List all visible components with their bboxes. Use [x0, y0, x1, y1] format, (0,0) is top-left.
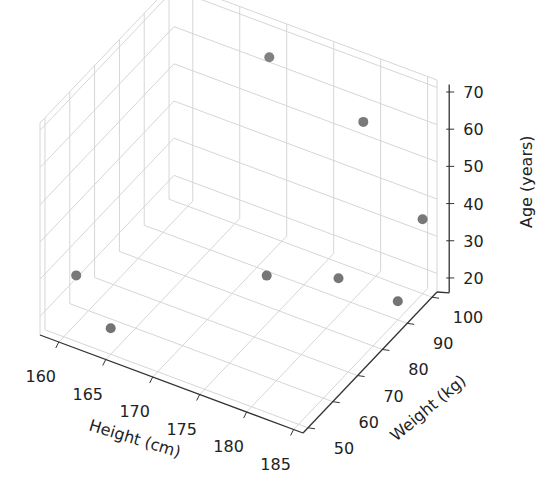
- y-tick-label: 50: [334, 439, 354, 458]
- x-tick-label: 185: [260, 455, 291, 474]
- axis-labels: Height (cm) Weight (kg) Age (years): [87, 135, 536, 461]
- back-wall-grid-line: [174, 138, 437, 236]
- left-wall-grid-line: [40, 175, 174, 316]
- data-point: [358, 117, 368, 127]
- data-point: [262, 271, 272, 281]
- floor-grid-line: [45, 330, 308, 428]
- left-wall-grid-line: [40, 0, 174, 130]
- plot-area: 1601651701751801855060708090100203040506…: [0, 0, 553, 496]
- z-tick-label: 30: [463, 232, 483, 251]
- x-tick-label: 165: [72, 385, 103, 404]
- z-tick-label: 20: [463, 269, 483, 288]
- y-tick: [407, 323, 414, 324]
- floor-grid-line: [95, 278, 358, 376]
- back-wall-grid-line: [174, 64, 437, 162]
- x-tick-label: 180: [213, 437, 244, 456]
- data-point: [71, 270, 81, 280]
- left-wall-grid-line: [40, 27, 174, 168]
- back-wall-grid-line: [174, 175, 437, 273]
- y-tick: [308, 428, 315, 429]
- x-tick-label: 175: [166, 420, 197, 439]
- data-point: [418, 214, 428, 224]
- left-wall-grid-line: [40, 64, 174, 205]
- data-point: [106, 323, 116, 333]
- x-tick: [150, 377, 153, 383]
- z-tick-label: 70: [463, 83, 483, 102]
- y-tick-label: 70: [383, 387, 403, 406]
- data-point: [264, 52, 274, 62]
- floor-grid-line: [144, 225, 407, 323]
- y-tick-label: 60: [359, 413, 379, 432]
- x-tick: [197, 395, 200, 401]
- z-tick-label: 40: [463, 195, 483, 214]
- floor-grid-line: [70, 304, 333, 402]
- z-axis-line: [437, 292, 449, 293]
- z-axis-label: Age (years): [517, 135, 536, 228]
- x-tick-label: 170: [119, 402, 150, 421]
- x-tick: [56, 342, 59, 348]
- left-wall-grid-line: [40, 138, 174, 279]
- back-wall-grid-line: [174, 27, 437, 125]
- x-tick: [244, 412, 247, 418]
- floor-grid-line: [119, 251, 382, 349]
- x-tick: [103, 360, 106, 366]
- data-points: [71, 52, 427, 333]
- y-tick-label: 100: [453, 308, 484, 327]
- left-wall-grid-line: [40, 101, 174, 242]
- y-tick: [432, 297, 439, 298]
- z-tick-label: 60: [463, 120, 483, 139]
- z-tick-label: 50: [463, 157, 483, 176]
- y-axis-label: Weight (kg): [386, 371, 469, 445]
- y-tick: [358, 376, 365, 377]
- data-point: [393, 296, 403, 306]
- x-tick: [291, 430, 294, 436]
- back-wall-grid-line: [174, 101, 437, 199]
- x-tick-label: 160: [26, 367, 57, 386]
- y-tick: [333, 402, 340, 403]
- data-point: [334, 273, 344, 283]
- floor-grid-line: [169, 199, 432, 297]
- scatter-3d-chart: 1601651701751801855060708090100203040506…: [0, 0, 553, 496]
- y-tick-label: 90: [433, 334, 453, 353]
- back-wall-grid-line: [174, 0, 437, 87]
- y-tick: [382, 349, 389, 350]
- grid-lines: [40, 0, 437, 430]
- y-tick-label: 80: [408, 360, 428, 379]
